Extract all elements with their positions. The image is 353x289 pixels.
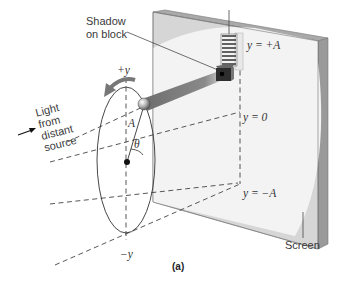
center-point xyxy=(124,159,130,165)
minus-y-label: −y xyxy=(120,248,134,261)
plus-y-label: +y xyxy=(117,64,131,77)
light-arrow-icon xyxy=(18,128,36,135)
ball xyxy=(138,98,150,110)
shm-projection-diagram: Shadow on block Light from distant sourc… xyxy=(0,0,353,289)
radius-line xyxy=(127,102,145,162)
y-plus-a-label: y = +A xyxy=(246,39,281,52)
rotation-arrow-icon xyxy=(110,79,135,88)
shadow-label-2: on block xyxy=(86,28,127,40)
y-zero-label: y = 0 xyxy=(242,111,268,124)
shadow-label: Shadow xyxy=(86,15,126,27)
amplitude-label: A xyxy=(127,117,136,129)
y-minus-a-label: y = −A xyxy=(242,187,277,200)
screen-label: Screen xyxy=(285,239,320,251)
theta-label: θ xyxy=(134,138,140,150)
figure-caption: (a) xyxy=(172,261,184,272)
